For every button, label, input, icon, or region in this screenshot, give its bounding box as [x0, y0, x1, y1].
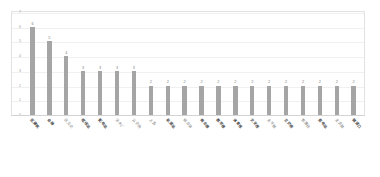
x-tick-slot: 教学楼 [210, 117, 227, 157]
bar-item[interactable]: 2 [244, 12, 261, 115]
bar-item[interactable]: 2 [311, 12, 328, 115]
x-axis-tick-label: 配电站 [97, 118, 108, 129]
x-axis-tick-label: 变电站 [317, 118, 328, 129]
bar-value-label: 6 [31, 22, 33, 26]
x-axis-tick-label: 主干路 [266, 118, 277, 129]
x-axis-tick-label: 体育馆 [232, 118, 243, 129]
bar-value-label: 2 [319, 80, 321, 84]
x-tick-slot: 主干路 [261, 117, 278, 157]
bar-rect[interactable] [64, 56, 68, 115]
bar-series: 65433332222222222222 [22, 12, 364, 115]
x-axis-tick-label: 综合体 [181, 118, 192, 129]
bar-rect[interactable] [318, 86, 322, 115]
bar-item[interactable]: 2 [193, 12, 210, 115]
x-axis-tick-label: 区建筑 [29, 118, 40, 129]
bar-chart: 01234567 65433332222222222222 区建筑会展区立交枢纽… [0, 0, 380, 177]
bar-value-label: 3 [133, 66, 135, 70]
bar-rect[interactable] [115, 71, 119, 115]
x-tick-slot: 变电站 [311, 117, 328, 157]
bar-rect[interactable] [199, 86, 203, 115]
bar-rect[interactable] [166, 86, 170, 115]
bar-rect[interactable] [351, 86, 355, 115]
bar-item[interactable]: 4 [58, 12, 75, 115]
bar-rect[interactable] [182, 86, 186, 115]
bar-rect[interactable] [98, 71, 102, 115]
bar-value-label: 2 [184, 80, 186, 84]
x-tick-slot: 主支路 [328, 117, 345, 157]
x-axis-tick-label: 文化馆 [249, 118, 260, 129]
x-axis-tick-label: 主支路 [334, 118, 345, 129]
bar-item[interactable]: 2 [261, 12, 278, 115]
x-tick-slot: 管廊段 [295, 117, 312, 157]
bar-rect[interactable] [335, 86, 339, 115]
bar-item[interactable]: 2 [227, 12, 244, 115]
x-tick-slot: 枢纽站 [75, 117, 92, 157]
bar-rect[interactable] [132, 71, 136, 115]
bar-item[interactable]: 2 [142, 12, 159, 115]
bar-item[interactable]: 3 [92, 12, 109, 115]
x-axis-tick-label: 区立交 [63, 118, 74, 129]
bar-value-label: 2 [150, 80, 152, 84]
bar-item[interactable]: 2 [210, 12, 227, 115]
x-axis-tick-label: 污水厂 [114, 118, 125, 129]
bar-item[interactable]: 2 [295, 12, 312, 115]
bar-item[interactable]: 2 [159, 12, 176, 115]
x-axis: 区建筑会展区立交枢纽站配电站污水厂公交场上盖轨道站综合体商业楼教学楼体育馆文化馆… [22, 117, 364, 157]
bar-item[interactable]: 3 [125, 12, 142, 115]
bar-value-label: 3 [82, 66, 84, 70]
x-axis-tick-label: 教学楼 [215, 118, 226, 129]
x-axis-baseline [11, 115, 365, 116]
bar-item[interactable]: 2 [328, 12, 345, 115]
x-axis-tick-label: 轨道站 [165, 118, 176, 129]
bar-item[interactable]: 3 [75, 12, 92, 115]
bar-value-label: 5 [48, 36, 50, 40]
x-tick-slot: 综合体 [176, 117, 193, 157]
bar-value-label: 2 [200, 80, 202, 84]
x-tick-slot: 配电站 [92, 117, 109, 157]
x-tick-slot: 区建筑 [24, 117, 41, 157]
bar-rect[interactable] [216, 86, 220, 115]
y-axis-tick-label: 7 [19, 10, 21, 14]
bar-rect[interactable] [267, 86, 271, 115]
x-tick-slot: 轨道站 [159, 117, 176, 157]
x-tick-slot: 公交场 [125, 117, 142, 157]
x-tick-slot: 上盖 [142, 117, 159, 157]
x-tick-slot: 体育馆 [227, 117, 244, 157]
bar-rect[interactable] [233, 86, 237, 115]
bar-rect[interactable] [301, 86, 305, 115]
x-tick-slot: 污水厂 [109, 117, 126, 157]
bar-value-label: 2 [234, 80, 236, 84]
bar-rect[interactable] [284, 86, 288, 115]
x-tick-slot: 立交桥 [278, 117, 295, 157]
y-axis-tick-label: 3 [19, 69, 21, 73]
bar-value-label: 3 [99, 66, 101, 70]
x-tick-slot: 商业楼 [193, 117, 210, 157]
bar-item[interactable]: 2 [345, 12, 362, 115]
y-axis-tick-label: 4 [19, 54, 21, 58]
bar-rect[interactable] [250, 86, 254, 115]
bar-rect[interactable] [30, 27, 34, 115]
bar-value-label: 2 [251, 80, 253, 84]
bar-rect[interactable] [149, 86, 153, 115]
y-axis-tick-label: 6 [19, 25, 21, 29]
bar-item[interactable]: 2 [278, 12, 295, 115]
x-tick-slot: 区立交 [58, 117, 75, 157]
bar-value-label: 2 [167, 80, 169, 84]
bar-item[interactable]: 3 [109, 12, 126, 115]
y-axis-tick-label: 2 [19, 84, 21, 88]
bar-rect[interactable] [47, 41, 51, 115]
bar-value-label: 2 [285, 80, 287, 84]
bar-item[interactable]: 6 [24, 12, 41, 115]
y-axis-tick-label: 5 [19, 39, 21, 43]
plot-area: 65433332222222222222 [22, 12, 364, 115]
bar-value-label: 2 [336, 80, 338, 84]
x-axis-tick-label: 商业楼 [198, 118, 209, 129]
x-tick-slot: 文化馆 [244, 117, 261, 157]
bar-rect[interactable] [81, 71, 85, 115]
bar-item[interactable]: 2 [176, 12, 193, 115]
bar-value-label: 2 [217, 80, 219, 84]
x-axis-tick-label: 公交场 [131, 118, 142, 129]
bar-item[interactable]: 5 [41, 12, 58, 115]
bar-value-label: 4 [65, 51, 67, 55]
x-axis-tick-label: 上盖 [148, 118, 157, 127]
